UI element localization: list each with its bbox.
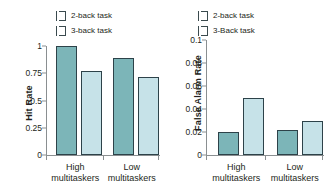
bar [277, 130, 298, 155]
bar [218, 132, 239, 155]
legend-hit-rate: 2-back task 3-back task [56, 9, 112, 39]
y-tick-label: 0.02 [185, 128, 202, 137]
x-label-line1: Low [266, 162, 325, 173]
chart-panel-false-alarm-rate: 2-back task 3-Back task False Alarm Rate… [164, 0, 328, 195]
x-label-line2: multitaskers [104, 173, 161, 184]
legend-swatch-2back-icon [56, 11, 66, 21]
plot-area-hit-rate: Hit Rate 00.250.50.751 HighmultitaskersL… [20, 46, 160, 156]
bar-group-container [47, 46, 160, 155]
y-tick-label: 0.1 [190, 36, 202, 45]
y-tick-label: 0.08 [185, 59, 202, 68]
bar [56, 46, 77, 155]
bar-group-container [207, 40, 324, 155]
y-axis-ticks: 00.250.50.751 [20, 46, 46, 156]
y-tick-label: 0.75 [25, 69, 42, 78]
bar [113, 58, 134, 155]
legend-label: 2-back task [213, 11, 254, 20]
x-label-line1: Low [104, 162, 161, 173]
legend-label: 2-back task [71, 11, 112, 20]
x-axis-group-label: Highmultitaskers [207, 156, 266, 184]
legend-swatch-3back-icon [56, 26, 66, 36]
legend-item: 2-back task [56, 9, 112, 22]
bar [81, 71, 102, 155]
x-axis-group-label: Lowmultitaskers [104, 156, 161, 184]
legend-item: 2-back task [198, 9, 255, 22]
y-tick-label: 0.25 [25, 124, 42, 133]
x-label-line2: multitaskers [207, 173, 266, 184]
x-label-line2: multitaskers [266, 173, 325, 184]
y-tick-label: 0.04 [185, 105, 202, 114]
bar [302, 121, 323, 156]
y-tick-label: 0.06 [185, 82, 202, 91]
figure: 2-back task 3-back task Hit Rate 00.250.… [0, 0, 328, 195]
y-tick-label: 0.5 [30, 96, 42, 105]
legend-item: 3-back task [56, 24, 112, 37]
y-axis-ticks: 00.020.040.060.080.1 [180, 40, 206, 156]
chart-panel-hit-rate: 2-back task 3-back task Hit Rate 00.250.… [0, 0, 164, 195]
x-label-line1: High [47, 162, 104, 173]
bar [138, 77, 159, 155]
legend-label: 3-back task [71, 26, 112, 35]
plot-area-false-alarm-rate: False Alarm Rate 00.020.040.060.080.1 Hi… [180, 40, 324, 156]
bar [243, 98, 264, 156]
legend-swatch-2back-icon [198, 11, 208, 21]
x-axis-group-label: Highmultitaskers [47, 156, 104, 184]
x-label-line2: multitaskers [47, 173, 104, 184]
legend-label: 3-Back task [213, 26, 255, 35]
legend-false-alarm-rate: 2-back task 3-Back task [198, 9, 255, 39]
x-axis-group-label: Lowmultitaskers [266, 156, 325, 184]
x-label-line1: High [207, 162, 266, 173]
legend-item: 3-Back task [198, 24, 255, 37]
